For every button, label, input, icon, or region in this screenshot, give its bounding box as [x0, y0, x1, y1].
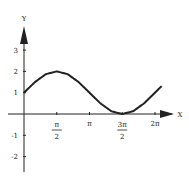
x-tick-label-numerator: 3π	[118, 121, 127, 129]
y-axis-arrow-icon	[20, 26, 28, 44]
sine-chart: Y X 321-1-2 π2π3π22π	[0, 0, 189, 178]
x-tick-label-denominator: 2	[120, 133, 124, 141]
sine-curve	[24, 72, 162, 114]
y-tick-label: -1	[11, 132, 18, 140]
y-axis-label: Y	[21, 15, 27, 23]
x-axis-arrow-icon	[160, 110, 174, 118]
x-tick-label: 2π	[150, 120, 159, 128]
y-tick-label: 2	[14, 68, 18, 76]
y-tick-label: -2	[11, 153, 18, 161]
y-tick-label: 1	[14, 89, 18, 97]
x-tick-label-numerator: π	[54, 121, 59, 129]
y-tick-label: 3	[14, 47, 18, 55]
x-ticks: π2π3π22π	[52, 112, 160, 141]
x-tick-label: π	[87, 120, 92, 128]
x-axis-label: X	[178, 111, 183, 119]
x-tick-label-denominator: 2	[55, 133, 59, 141]
